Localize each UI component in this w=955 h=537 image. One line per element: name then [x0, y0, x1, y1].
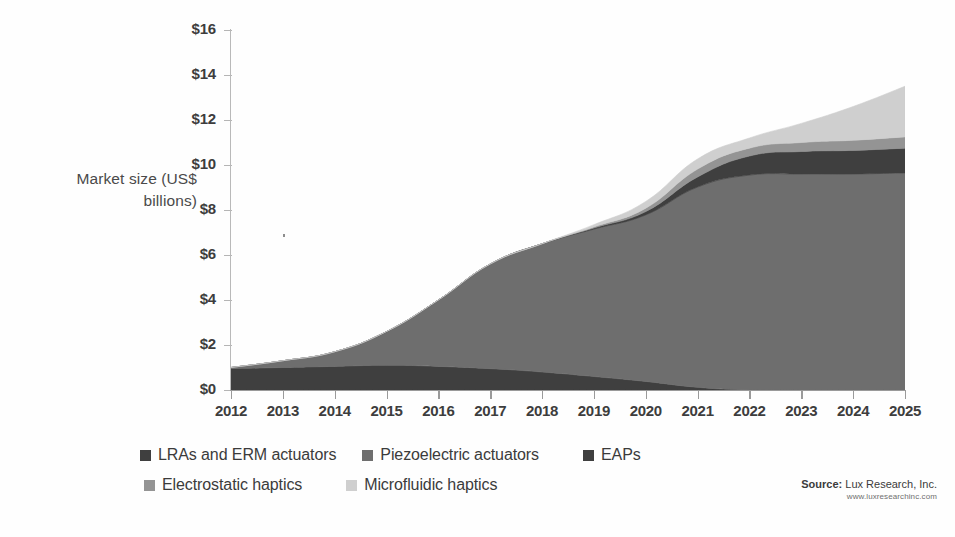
legend-item[interactable]: Microfluidic haptics	[346, 476, 497, 494]
plot-area	[231, 30, 905, 390]
legend-item[interactable]: EAPs	[583, 446, 641, 464]
x-axis-tick-label: 2025	[875, 402, 935, 419]
legend-swatch-icon	[144, 480, 155, 491]
source-url: www.luxresearchinc.com	[801, 492, 937, 501]
x-axis-tick	[801, 391, 802, 399]
y-axis-tick-label: $2	[146, 335, 216, 352]
legend-swatch-icon	[583, 450, 594, 461]
legend-row-1: LRAs and ERM actuatorsPiezoelectric actu…	[140, 446, 740, 464]
legend-swatch-icon	[362, 450, 373, 461]
legend-label: EAPs	[601, 446, 641, 464]
x-axis-tick	[335, 391, 336, 399]
legend-label: Piezoelectric actuators	[380, 446, 539, 464]
x-axis-tick	[853, 391, 854, 399]
legend-item[interactable]: LRAs and ERM actuators	[140, 446, 336, 464]
legend-swatch-icon	[346, 480, 357, 491]
x-axis-tick	[646, 391, 647, 399]
x-axis-tick	[698, 391, 699, 399]
y-axis-tick-label: $6	[146, 245, 216, 262]
x-axis-tick	[749, 391, 750, 399]
legend: LRAs and ERM actuatorsPiezoelectric actu…	[140, 446, 740, 506]
legend-item[interactable]: Electrostatic haptics	[144, 476, 302, 494]
x-axis-line	[230, 390, 906, 391]
y-axis-tick-label: $0	[146, 380, 216, 397]
legend-label: LRAs and ERM actuators	[158, 446, 336, 464]
y-axis-tick-label: $16	[146, 20, 216, 37]
y-axis-tick-labels: $0$2$4$6$8$10$12$14$16	[140, 0, 216, 400]
image-speck	[283, 234, 285, 237]
source-attribution: Source: Lux Research, Inc.	[801, 478, 937, 490]
stacked-area-chart: Market size (US$ billions) $0$2$4$6$8$10…	[0, 0, 955, 537]
x-axis-tick	[542, 391, 543, 399]
source-prefix: Source:	[801, 478, 842, 490]
x-axis-tick	[594, 391, 595, 399]
y-axis-tick-label: $8	[146, 200, 216, 217]
x-axis-tick	[283, 391, 284, 399]
source-name: Lux Research, Inc.	[842, 478, 937, 490]
legend-swatch-icon	[140, 450, 151, 461]
legend-row-2: Electrostatic hapticsMicrofluidic haptic…	[140, 476, 740, 494]
area-series-svg	[231, 30, 905, 390]
y-axis-tick-label: $12	[146, 110, 216, 127]
y-axis-tick-label: $4	[146, 290, 216, 307]
x-axis-tick	[231, 391, 232, 399]
legend-item[interactable]: Piezoelectric actuators	[362, 446, 539, 464]
x-axis-tick	[905, 391, 906, 399]
legend-label: Electrostatic haptics	[162, 476, 302, 494]
source-note: Source: Lux Research, Inc. www.luxresear…	[801, 478, 937, 501]
area-series-piezoelectric-actuators	[231, 173, 905, 390]
legend-label: Microfluidic haptics	[364, 476, 497, 494]
x-axis-tick	[490, 391, 491, 399]
y-axis-tick-label: $14	[146, 65, 216, 82]
y-axis-tick-label: $10	[146, 155, 216, 172]
x-axis-tick	[438, 391, 439, 399]
x-axis-tick	[387, 391, 388, 399]
